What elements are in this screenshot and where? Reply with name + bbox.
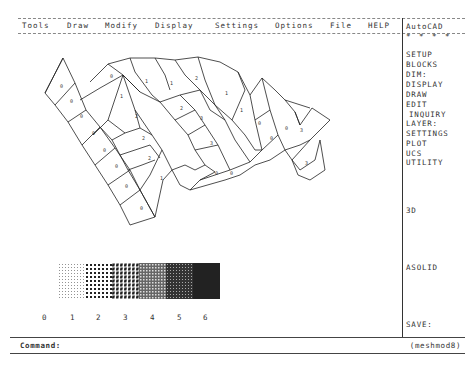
mesh-cell-label: 0 bbox=[230, 170, 233, 176]
mesh-edge bbox=[160, 102, 205, 165]
sidebar-title[interactable]: AutoCAD bbox=[406, 22, 443, 31]
mesh-cell-label: 0 bbox=[270, 135, 273, 141]
mesh-cell-label: 1 bbox=[225, 90, 228, 96]
command-line[interactable]: Command: (meshmod8) bbox=[10, 337, 465, 354]
sidebar-item-utility[interactable]: UTILITY bbox=[406, 158, 443, 167]
mesh-edge bbox=[108, 120, 125, 133]
mesh-cell-label: 0 bbox=[140, 205, 143, 211]
drawing-name: (meshmod8) bbox=[410, 341, 461, 350]
sidebar-item-3d[interactable]: 3D bbox=[406, 206, 417, 215]
mesh-edge bbox=[172, 165, 215, 172]
mesh-edge bbox=[140, 170, 172, 217]
sidebar-item-plot[interactable]: PLOT bbox=[406, 139, 427, 148]
pattern-swatch-2[interactable] bbox=[85, 263, 112, 299]
mesh-cell-label: 1 bbox=[145, 78, 148, 84]
command-prompt: Command: bbox=[20, 341, 61, 350]
mesh-edge bbox=[232, 72, 245, 120]
mesh-edge bbox=[80, 75, 232, 120]
mesh-cell-label: 0 bbox=[92, 130, 95, 136]
sidebar-stars[interactable]: * * * * bbox=[406, 32, 452, 41]
mesh-edge bbox=[195, 145, 218, 150]
sidebar-item-layer[interactable]: LAYER: bbox=[406, 119, 438, 128]
mesh-edge bbox=[180, 95, 230, 170]
mesh-cell-label: 3 bbox=[305, 160, 308, 166]
pattern-label-0: 0 bbox=[42, 313, 47, 322]
mesh-cell-label: 0 bbox=[60, 83, 63, 89]
sidebar-item-dim[interactable]: DIM: bbox=[406, 70, 427, 79]
sidebar-item-asolid[interactable]: ASOLID bbox=[406, 263, 438, 272]
mesh-edge bbox=[200, 90, 250, 162]
pattern-label-2: 2 bbox=[96, 313, 101, 322]
mesh-edge bbox=[162, 150, 215, 190]
sidebar-item-edit[interactable]: EDIT bbox=[406, 100, 427, 109]
mesh-cell-label: 0 bbox=[285, 125, 288, 131]
mesh-cell-label: 2 bbox=[180, 105, 183, 111]
mesh-lines bbox=[45, 57, 330, 225]
pattern-label-3: 3 bbox=[123, 313, 128, 322]
pattern-label-4: 4 bbox=[150, 313, 155, 322]
mesh-edge bbox=[120, 190, 140, 205]
pattern-swatch-1[interactable] bbox=[58, 263, 85, 299]
sidebar-item-settings[interactable]: SETTINGS bbox=[406, 129, 449, 138]
pattern-label-1: 1 bbox=[70, 313, 75, 322]
sidebar-divider bbox=[402, 18, 403, 338]
mesh-cell-label: 3 bbox=[210, 140, 213, 146]
mesh-cell-label: 3 bbox=[300, 127, 303, 133]
mesh-edge bbox=[112, 140, 160, 158]
mesh-edge bbox=[155, 58, 170, 90]
mesh-edge bbox=[82, 127, 100, 145]
pattern-swatch-6[interactable] bbox=[193, 263, 220, 299]
mesh-cell-label: 2 bbox=[135, 113, 138, 119]
mesh-edge bbox=[292, 108, 330, 160]
pattern-swatch-5[interactable] bbox=[166, 263, 193, 299]
sidebar-item-setup[interactable]: SETUP bbox=[406, 50, 433, 59]
mesh-wireframe[interactable]: 00000000012221112233110003300 bbox=[0, 0, 400, 250]
mesh-edge bbox=[262, 78, 292, 160]
sidebar-item-save[interactable]: SAVE: bbox=[406, 320, 433, 329]
mesh-cell-label: 2 bbox=[142, 135, 145, 141]
mesh-cell-label: 0 bbox=[80, 113, 83, 119]
mesh-cell-label: 0 bbox=[125, 183, 128, 189]
pattern-label-5: 5 bbox=[177, 313, 182, 322]
mesh-cell-label: 0 bbox=[110, 73, 113, 79]
mesh-edge bbox=[285, 140, 310, 150]
mesh-cell-label: 0 bbox=[115, 163, 118, 169]
sidebar-item-blocks[interactable]: BLOCKS bbox=[406, 60, 438, 69]
mesh-edge bbox=[68, 110, 86, 122]
sidebar-item-inquiry[interactable]: INQUIRY bbox=[409, 110, 446, 119]
sidebar-item-ucs[interactable]: UCS bbox=[406, 149, 422, 158]
mesh-cell-label: 0 bbox=[70, 98, 73, 104]
pattern-swatch-3[interactable] bbox=[112, 263, 139, 299]
mesh-edge bbox=[188, 125, 205, 135]
sidebar-item-display[interactable]: DISPLAY bbox=[406, 80, 443, 89]
mesh-cell-label: 2 bbox=[195, 75, 198, 81]
mesh-edge bbox=[128, 150, 162, 190]
pattern-swatch-4[interactable] bbox=[139, 263, 166, 299]
mesh-edge bbox=[175, 110, 195, 120]
mesh-edge bbox=[198, 57, 215, 105]
mesh-edge bbox=[295, 112, 300, 125]
mesh-cell-label: 3 bbox=[200, 115, 203, 121]
pattern-label-6: 6 bbox=[203, 313, 208, 322]
mesh-cell-label: 1 bbox=[160, 175, 163, 181]
mesh-edge bbox=[255, 110, 270, 120]
mesh-cell-label: 0 bbox=[103, 147, 106, 153]
mesh-cell-label: 2 bbox=[148, 155, 151, 161]
mesh-cell-label: 0 bbox=[215, 170, 218, 176]
sidebar-item-draw[interactable]: DRAW bbox=[406, 90, 427, 99]
mesh-cell-label: 1 bbox=[240, 107, 243, 113]
mesh-edge bbox=[270, 150, 285, 160]
mesh-cell-label: 1 bbox=[170, 80, 173, 86]
mesh-cell-label: 1 bbox=[120, 93, 123, 99]
mesh-cell-label: 0 bbox=[258, 120, 261, 126]
